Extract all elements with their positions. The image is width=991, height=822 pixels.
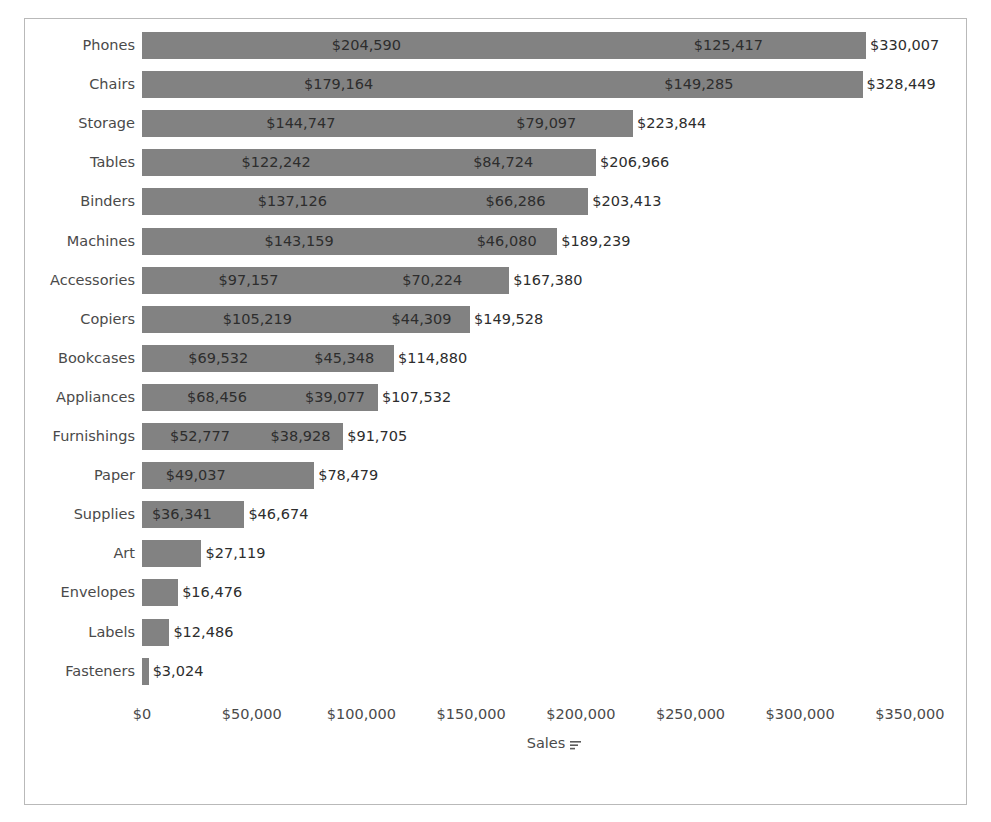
bar-row[interactable]: Machines$143,159$46,080$189,239 (25, 228, 966, 255)
bar-track: $52,777$38,928$91,705 (142, 423, 966, 450)
segment-value-label: $125,417 (591, 32, 866, 59)
category-label[interactable]: Envelopes (22, 579, 142, 606)
segment-value-label: $70,224 (355, 267, 509, 294)
bar-row[interactable]: Bookcases$69,532$45,348$114,880 (25, 345, 966, 372)
bar-row[interactable]: Envelopes$16,476 (25, 579, 966, 606)
segment-value-label: $84,724 (410, 149, 596, 176)
bar-row[interactable]: Art$27,119 (25, 540, 966, 567)
segment-value-label: $38,928 (258, 423, 343, 450)
category-label[interactable]: Paper (22, 462, 142, 489)
bar-row[interactable]: Furnishings$52,777$38,928$91,705 (25, 423, 966, 450)
category-label[interactable]: Copiers (22, 306, 142, 333)
segment-value-label: $36,341 (142, 501, 222, 528)
category-label-holder: Storage (25, 110, 142, 137)
segment-value-label: $79,097 (460, 110, 634, 137)
category-label-holder: Accessories (25, 267, 142, 294)
category-label[interactable]: Chairs (22, 71, 142, 98)
segment-value-label: $144,747 (142, 110, 460, 137)
category-label-holder: Supplies (25, 501, 142, 528)
segment-value-label: $39,077 (292, 384, 378, 411)
bar-row[interactable]: Appliances$68,456$39,077$107,532 (25, 384, 966, 411)
bar-track: $12,486 (142, 619, 966, 646)
total-value-label: $189,239 (557, 228, 630, 255)
x-tick-label: $200,000 (546, 706, 615, 722)
segment-value-label: $66,286 (443, 188, 588, 215)
total-value-label: $328,449 (863, 71, 936, 98)
bar-row[interactable]: Binders$137,126$66,286$203,413 (25, 188, 966, 215)
bar-track: $179,164$149,285$328,449 (142, 71, 966, 98)
bar-row[interactable]: Paper$49,037$78,479 (25, 462, 966, 489)
category-label-holder: Appliances (25, 384, 142, 411)
category-label[interactable]: Art (22, 540, 142, 567)
total-value-label: $12,486 (169, 619, 233, 646)
category-label-holder: Labels (25, 619, 142, 646)
stacked-bar[interactable] (142, 658, 149, 685)
stacked-bar[interactable] (142, 619, 169, 646)
category-label[interactable]: Supplies (22, 501, 142, 528)
category-label[interactable]: Binders (22, 188, 142, 215)
bar-track: $122,242$84,724$206,966 (142, 149, 966, 176)
bar-track: $105,219$44,309$149,528 (142, 306, 966, 333)
bar-row[interactable]: Labels$12,486 (25, 619, 966, 646)
bar-row[interactable]: Tables$122,242$84,724$206,966 (25, 149, 966, 176)
category-label-holder: Tables (25, 149, 142, 176)
bar-track: $49,037$78,479 (142, 462, 966, 489)
segment-value-label: $45,348 (295, 345, 394, 372)
segment-value-label: $179,164 (142, 71, 535, 98)
bar-row[interactable]: Accessories$97,157$70,224$167,380 (25, 267, 966, 294)
stacked-bar[interactable] (142, 579, 178, 606)
plot-area: Phones$204,590$125,417$330,007Chairs$179… (25, 19, 966, 804)
total-value-label: $114,880 (394, 345, 467, 372)
category-label-holder: Bookcases (25, 345, 142, 372)
total-value-label: $46,674 (244, 501, 308, 528)
category-label[interactable]: Furnishings (22, 423, 142, 450)
bar-track: $69,532$45,348$114,880 (142, 345, 966, 372)
category-label[interactable]: Phones (22, 32, 142, 59)
category-label[interactable]: Tables (22, 149, 142, 176)
x-tick-label: $0 (133, 706, 151, 722)
total-value-label: $206,966 (596, 149, 669, 176)
x-tick-label: $250,000 (656, 706, 725, 722)
category-label[interactable]: Storage (22, 110, 142, 137)
category-label-holder: Paper (25, 462, 142, 489)
stacked-bar[interactable] (142, 540, 201, 567)
category-label[interactable]: Labels (22, 619, 142, 646)
segment-value-label: $46,080 (456, 228, 557, 255)
total-value-label: $149,528 (470, 306, 543, 333)
bar-row[interactable]: Phones$204,590$125,417$330,007 (25, 32, 966, 59)
total-value-label: $3,024 (149, 658, 204, 685)
segment-value-label: $68,456 (142, 384, 292, 411)
category-label[interactable]: Machines (22, 228, 142, 255)
bar-track: $143,159$46,080$189,239 (142, 228, 966, 255)
total-value-label: $78,479 (314, 462, 378, 489)
bar-track: $68,456$39,077$107,532 (142, 384, 966, 411)
total-value-label: $223,844 (633, 110, 706, 137)
bar-row[interactable]: Storage$144,747$79,097$223,844 (25, 110, 966, 137)
category-label[interactable]: Bookcases (22, 345, 142, 372)
sort-descending-icon[interactable] (570, 738, 581, 749)
bar-track: $3,024 (142, 658, 966, 685)
bar-row[interactable]: Supplies$36,341$46,674 (25, 501, 966, 528)
segment-value-label: $143,159 (142, 228, 456, 255)
x-tick-label: $300,000 (766, 706, 835, 722)
total-value-label: $167,380 (509, 267, 582, 294)
segment-value-label: $105,219 (142, 306, 373, 333)
segment-value-label: $204,590 (142, 32, 591, 59)
segment-value-label: $49,037 (142, 462, 250, 489)
category-label-holder: Envelopes (25, 579, 142, 606)
category-label[interactable]: Appliances (22, 384, 142, 411)
x-tick-label: $350,000 (875, 706, 944, 722)
bar-track: $144,747$79,097$223,844 (142, 110, 966, 137)
category-label[interactable]: Accessories (22, 267, 142, 294)
x-axis-title: Sales (142, 735, 966, 751)
x-axis-title-label: Sales (527, 735, 566, 751)
x-tick-label: $150,000 (437, 706, 506, 722)
bar-row[interactable]: Chairs$179,164$149,285$328,449 (25, 71, 966, 98)
bar-row[interactable]: Copiers$105,219$44,309$149,528 (25, 306, 966, 333)
bar-track: $16,476 (142, 579, 966, 606)
bar-row[interactable]: Fasteners$3,024 (25, 658, 966, 685)
category-label-holder: Machines (25, 228, 142, 255)
category-label[interactable]: Fasteners (22, 658, 142, 685)
segment-value-label: $52,777 (142, 423, 258, 450)
category-label-holder: Chairs (25, 71, 142, 98)
